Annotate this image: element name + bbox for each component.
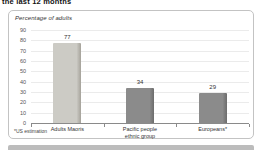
gridline	[31, 30, 249, 31]
y-tick-label: 60	[9, 58, 26, 64]
x-axis-line	[31, 123, 249, 124]
bar	[199, 93, 227, 123]
bar	[126, 88, 154, 123]
y-tick-label: 80	[9, 37, 26, 43]
chart-panel: Percentage of adults *US estimation 0102…	[8, 10, 254, 139]
bar-value-label: 77	[47, 34, 87, 41]
y-tick-label: 50	[9, 68, 26, 74]
y-tick-label: 0	[9, 120, 26, 126]
category-label: Pacific people ethnic group	[104, 126, 177, 139]
y-tick-label: 30	[9, 89, 26, 95]
category-label: Europeans*	[176, 126, 249, 133]
category-label: Adults Maoris	[31, 126, 104, 133]
y-tick-label: 90	[9, 27, 26, 33]
y-tick-label: 40	[9, 79, 26, 85]
bar	[53, 43, 81, 123]
chart-screenshot: { "header": { "title": "the last 12 mont…	[0, 0, 262, 150]
y-tick-label: 10	[9, 110, 26, 116]
chart-title: the last 12 months	[2, 0, 202, 6]
bar-value-label: 29	[193, 84, 233, 91]
x-axis-tick	[249, 124, 250, 127]
y-tick-label: 70	[9, 48, 26, 54]
y-axis-label: Percentage of adults	[15, 15, 72, 21]
bottom-shadow-strip	[8, 145, 254, 150]
y-tick-label: 20	[9, 99, 26, 105]
bar-value-label: 34	[120, 79, 160, 86]
